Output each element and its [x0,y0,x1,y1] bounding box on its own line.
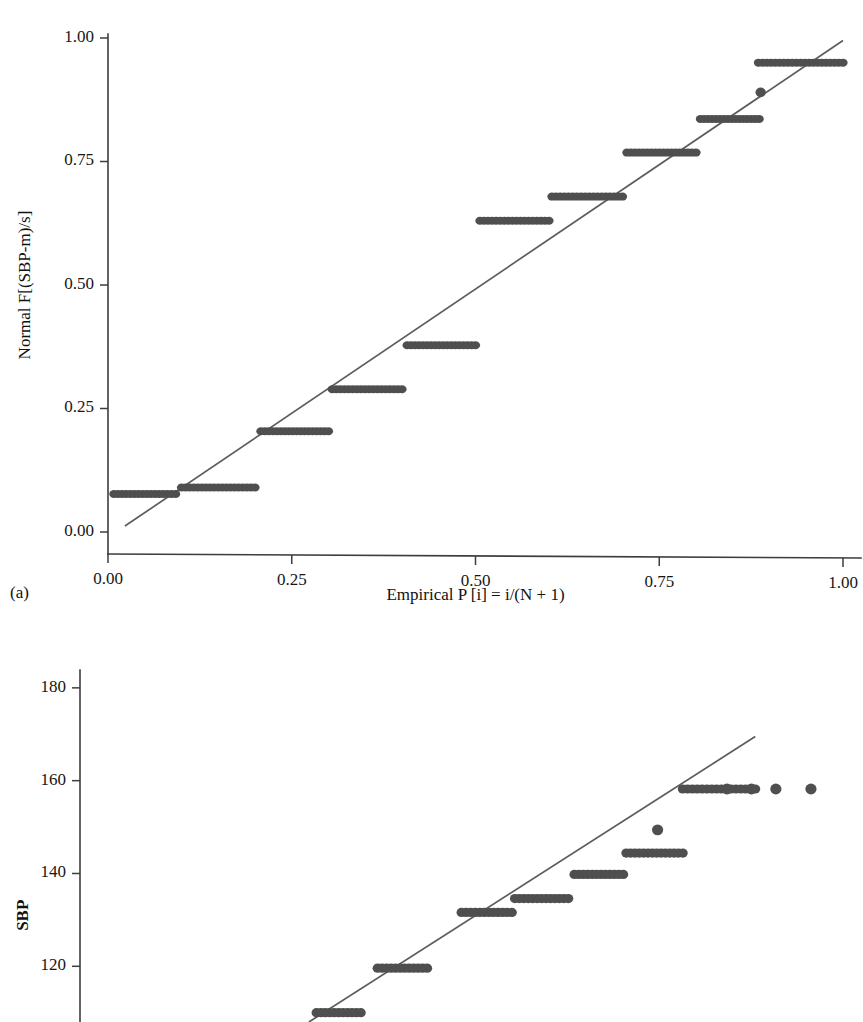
data-point [618,193,627,201]
data-point [721,784,732,795]
y-tick-label: 1.00 [64,27,94,46]
data-point [471,341,480,349]
y-axis-ticks: 120140160180 [41,677,81,974]
y-axis-title: Normal F[(SBP-m)/s] [15,211,34,360]
data-point [422,964,432,973]
chart-panel-a: 0.000.250.500.751.000.000.250.500.751.00… [0,0,863,620]
data-point [652,824,663,835]
data-point [755,115,764,123]
y-tick-label: 140 [41,862,67,881]
panel-caption-a: (a) [10,583,29,602]
data-points-group [109,59,847,498]
qq-plot-sbp: 120140160180SBP [0,620,863,1022]
data-point [746,784,757,795]
data-point [397,385,406,393]
chart-panel-b: 120140160180SBP [0,620,863,1022]
data-point [691,149,700,157]
x-axis-title: Empirical P [i] = i/(N + 1) [386,585,564,604]
data-point [544,217,553,225]
x-tick-label: 0.25 [277,570,307,589]
x-axis-line [108,554,861,558]
y-axis-ticks: 0.000.250.500.751.00 [64,27,108,540]
reference-fit-line [309,737,755,1022]
data-point [678,848,688,857]
y-axis-title: SBP [13,900,32,931]
data-point [324,427,333,435]
data-point [805,784,816,795]
data-point [250,484,259,492]
x-tick-label: 1.00 [828,573,858,592]
data-point [770,784,781,795]
data-point [171,490,180,498]
data-points-group [312,784,817,1018]
y-tick-label: 0.00 [64,521,94,540]
y-tick-label: 0.50 [64,274,94,293]
data-point [838,59,847,67]
y-tick-label: 0.75 [64,150,94,169]
data-point [563,894,573,903]
figure-page: 0.000.250.500.751.000.000.250.500.751.00… [0,0,863,1022]
data-point [356,1008,366,1017]
axes-group-a [108,34,861,558]
y-tick-label: 180 [41,677,67,696]
data-point [507,908,517,917]
x-tick-label: 0.00 [93,569,123,588]
y-tick-label: 120 [41,955,67,974]
y-tick-label: 160 [41,770,67,789]
data-point [755,88,765,98]
y-tick-label: 0.25 [64,397,94,416]
qq-plot-normal-vs-empirical: 0.000.250.500.751.000.000.250.500.751.00… [0,0,863,620]
data-point [618,870,628,879]
x-tick-label: 0.75 [644,572,674,591]
reference-fit-line [125,40,843,526]
